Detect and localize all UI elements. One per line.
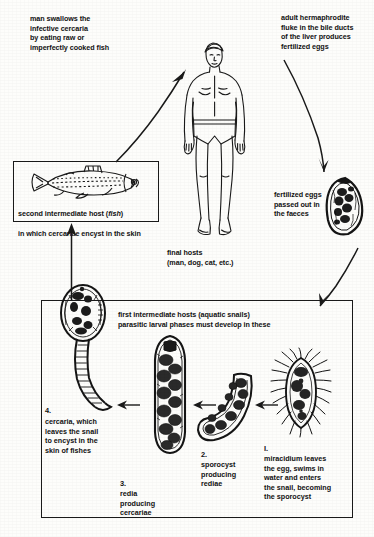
stage-4-number: 4. bbox=[45, 406, 51, 415]
stage-3-text: redia producing cercariae bbox=[120, 489, 155, 518]
arrow-man-to-eggs bbox=[282, 58, 352, 188]
miracidium-figure bbox=[268, 348, 334, 438]
caption-adult-fluke: adult hermaphrodite fluke in the bile du… bbox=[281, 13, 353, 51]
snail-box-header: first intermediate hosts (aquatic snails… bbox=[118, 310, 270, 329]
stage-2-text: sporocyst producing rediae bbox=[201, 460, 236, 489]
fish-caption-part-b: ) bbox=[121, 209, 123, 218]
life-cycle-diagram: man swallows the infective cercaria by e… bbox=[0, 0, 374, 537]
redia-figure bbox=[148, 334, 192, 456]
cercaria-figure bbox=[55, 283, 125, 418]
stage-1-number: I. bbox=[264, 444, 268, 453]
arrow-sporocyst-to-redia bbox=[192, 398, 218, 412]
stage-1-text: miracidium leaves the egg, swims in wate… bbox=[264, 454, 331, 502]
fish-caption-italic: fish bbox=[108, 209, 121, 218]
arrow-fish-to-man bbox=[60, 40, 200, 165]
fish-caption-part-a: second intermediate host ( bbox=[18, 209, 108, 218]
caption-fertilized-eggs: fertilized eggs passed out in the faeces bbox=[274, 190, 322, 219]
stage-4-text: cercaria, which leaves the snail to ency… bbox=[45, 417, 98, 455]
stage-2-number: 2. bbox=[201, 450, 207, 459]
stage-3-number: 3. bbox=[120, 479, 126, 488]
fish-figure bbox=[28, 166, 146, 199]
arrow-redia-to-cercaria bbox=[116, 398, 142, 412]
fertilized-egg-figure bbox=[324, 176, 366, 238]
caption-final-hosts: final hosts (man, dog, cat, etc.) bbox=[167, 248, 233, 267]
arrow-miracidium-to-sporocyst bbox=[254, 398, 280, 412]
